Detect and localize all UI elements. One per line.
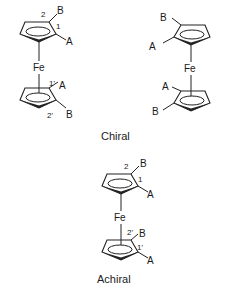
sub-label-a: A: [149, 41, 156, 52]
sub-label-a: A: [66, 36, 73, 47]
molecule-chiral-left: 2 B 1 A Fe 1' A 2' B: [20, 5, 73, 120]
sub-label-a-prime: A: [162, 81, 169, 92]
bond-b-prime: [56, 100, 66, 108]
bond-b: [172, 18, 181, 25]
pos-label-2: 2: [124, 162, 129, 171]
fe-label: Fe: [184, 63, 196, 74]
caption-chiral: Chiral: [101, 130, 130, 142]
sub-label-b: B: [160, 12, 167, 23]
sub-label-b: B: [57, 5, 64, 16]
sub-label-b: B: [140, 158, 147, 169]
cp-ring-bottom: [174, 91, 210, 111]
ferrocene-diagram: 2 B 1 A Fe 1' A 2' B B A Fe A B Chiral: [0, 0, 226, 289]
bond-b-prime: [163, 103, 174, 110]
sub-label-a-prime: A: [147, 255, 154, 266]
bond-b: [131, 166, 139, 174]
bond-b: [49, 14, 57, 22]
fe-label: Fe: [33, 62, 45, 73]
cp-ring-top: [174, 25, 210, 45]
bond-a: [56, 34, 66, 40]
sub-label-b-prime: B: [139, 228, 146, 239]
molecule-achiral: 2 B 1 A Fe 2' B 1' A: [102, 158, 154, 266]
cp-ring-bottom: [20, 88, 56, 108]
cp-ring-top: [20, 22, 56, 42]
fe-label: Fe: [114, 212, 126, 223]
pos-label-2-prime: 2': [47, 111, 53, 120]
bond-a: [163, 37, 174, 43]
pos-label-1-prime: 1': [137, 243, 143, 252]
cp-ring-top: [102, 174, 138, 194]
pos-label-1-prime: 1': [49, 79, 55, 88]
pos-label-2-prime: 2': [127, 228, 133, 237]
cp-ring-bottom: [102, 240, 138, 260]
sub-label-b-prime: B: [66, 109, 73, 120]
molecule-chiral-right: B A Fe A B: [149, 12, 210, 117]
sub-label-a: A: [147, 189, 154, 200]
sub-label-a-prime: A: [59, 80, 66, 91]
sub-label-b-prime: B: [152, 106, 159, 117]
pos-label-2: 2: [41, 10, 46, 19]
caption-achiral: Achiral: [97, 273, 131, 285]
pos-label-1: 1: [56, 22, 61, 31]
bond-a-prime: [172, 87, 181, 91]
pos-label-1: 1: [138, 175, 143, 184]
